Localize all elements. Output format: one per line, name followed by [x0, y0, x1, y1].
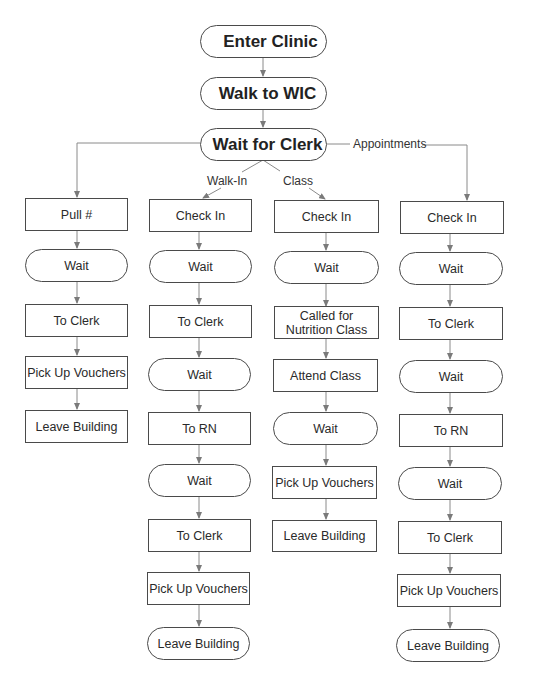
node-label: To Clerk: [54, 314, 100, 328]
node-wait: Wait: [399, 252, 503, 285]
node-check-in: Check In: [149, 199, 252, 232]
node-to-rn: To RN: [399, 414, 503, 447]
node-label: To Clerk: [177, 529, 223, 543]
node-to-clerk: To Clerk: [398, 521, 502, 554]
node-leave-building: Leave Building: [147, 627, 250, 660]
node-label: Walk to WIC: [211, 87, 317, 101]
node-label: To Clerk: [427, 531, 473, 545]
node-label: Wait: [313, 422, 338, 436]
node-pick-up-vouchers: Pick Up Vouchers: [25, 356, 128, 389]
node-called-for-nutrition-class: Called for Nutrition Class: [274, 306, 379, 339]
node-label: Check In: [427, 211, 476, 225]
node-check-in: Check In: [400, 201, 504, 234]
node-wait: Wait: [273, 412, 378, 445]
node-label: Pick Up Vouchers: [27, 366, 126, 380]
node-leave-building: Leave Building: [272, 520, 377, 552]
node-wait: Wait: [148, 464, 251, 497]
node-wait: Wait: [398, 467, 502, 500]
node-label: Pick Up Vouchers: [400, 584, 499, 598]
node-label: Leave Building: [157, 637, 239, 651]
branch-label-walk-in: Walk-In: [207, 174, 247, 188]
node-label: Wait: [438, 477, 463, 491]
node-pull-number: Pull #: [25, 198, 128, 231]
node-attend-class: Attend Class: [273, 359, 378, 392]
node-to-clerk: To Clerk: [149, 305, 252, 338]
node-to-clerk: To Clerk: [25, 304, 128, 337]
node-wait: Wait: [25, 249, 128, 282]
node-to-clerk: To Clerk: [399, 307, 503, 340]
node-label: Wait: [187, 474, 212, 488]
node-to-clerk: To Clerk: [148, 519, 251, 552]
node-check-in: Check In: [274, 200, 379, 233]
node-leave-building: Leave Building: [396, 629, 500, 662]
node-wait-for-clerk: Wait for Clerk: [200, 128, 327, 161]
node-label: Check In: [176, 209, 225, 223]
node-label: Wait: [188, 260, 213, 274]
node-label: Check In: [302, 210, 351, 224]
node-label: Leave Building: [283, 529, 365, 543]
node-label: Wait: [439, 370, 464, 384]
node-enter-clinic: Enter Clinic: [200, 25, 327, 58]
node-to-rn: To RN: [148, 412, 251, 445]
node-leave-building: Leave Building: [25, 410, 128, 443]
node-wait: Wait: [399, 360, 503, 393]
node-label: To RN: [434, 424, 469, 438]
node-label: Called for Nutrition Class: [281, 309, 372, 337]
node-label: Leave Building: [35, 420, 117, 434]
node-label: Pick Up Vouchers: [149, 582, 248, 596]
node-wait: Wait: [149, 250, 252, 283]
node-label: Wait for Clerk: [205, 138, 323, 152]
node-label: To RN: [182, 422, 217, 436]
node-label: Pick Up Vouchers: [275, 476, 374, 490]
node-label: Wait: [314, 261, 339, 275]
node-label: Wait: [64, 259, 89, 273]
node-pick-up-vouchers: Pick Up Vouchers: [397, 574, 501, 607]
node-label: Wait: [439, 262, 464, 276]
node-label: Pull #: [61, 208, 92, 222]
node-label: Wait: [187, 368, 212, 382]
node-label: Enter Clinic: [209, 35, 317, 49]
node-label: Attend Class: [290, 369, 361, 383]
branch-label-appointments: Appointments: [353, 137, 426, 151]
branch-label-class: Class: [283, 174, 313, 188]
node-walk-to-wic: Walk to WIC: [200, 77, 327, 110]
node-pick-up-vouchers: Pick Up Vouchers: [147, 572, 250, 605]
node-wait: Wait: [148, 358, 251, 391]
node-wait: Wait: [274, 251, 379, 284]
node-label: Leave Building: [407, 639, 489, 653]
node-label: To Clerk: [428, 317, 474, 331]
node-label: To Clerk: [178, 315, 224, 329]
node-pick-up-vouchers: Pick Up Vouchers: [272, 466, 377, 499]
